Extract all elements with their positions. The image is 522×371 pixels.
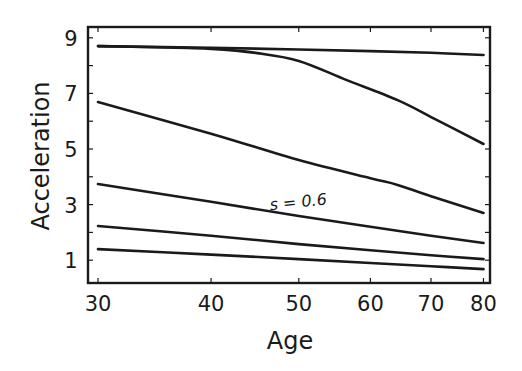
y-tick-label: 3 (64, 194, 77, 218)
x-tick-labels: 304050607080 (85, 292, 497, 316)
acceleration-vs-age-chart: 304050607080 13579 Age Acceleration s = … (0, 0, 522, 371)
x-tick-label: 70 (418, 292, 445, 316)
data-curves (98, 46, 484, 269)
x-axis-title: Age (267, 327, 313, 355)
curve-5-line (98, 226, 484, 259)
curve-6-line (98, 249, 484, 269)
y-tick-label: 1 (64, 249, 77, 273)
curve-2-line (98, 46, 484, 144)
x-tick-label: 60 (357, 292, 384, 316)
x-tick-label: 50 (285, 292, 312, 316)
plot-frame (88, 27, 490, 283)
x-tick-label: 30 (85, 292, 112, 316)
curve-annotation: s = 0.6 (269, 189, 328, 214)
y-tick-label: 9 (64, 27, 77, 51)
x-tick-label: 40 (198, 292, 225, 316)
x-tick-label: 80 (470, 292, 497, 316)
y-axis-title: Acceleration (27, 81, 55, 230)
y-tick-labels: 13579 (64, 27, 77, 273)
y-tick-label: 5 (64, 138, 77, 162)
axis-ticks (88, 27, 490, 283)
y-tick-label: 7 (64, 82, 77, 106)
